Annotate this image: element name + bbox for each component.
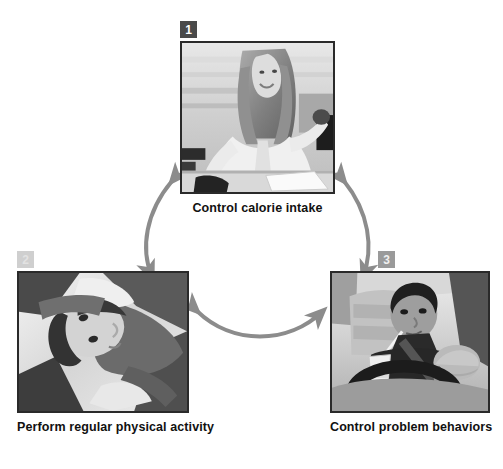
node-badge-2: 2 bbox=[17, 251, 34, 268]
node-photo-frame-1 bbox=[180, 41, 335, 194]
node-caption-3: Control problem behaviors bbox=[330, 420, 490, 434]
photo-woman-at-desk bbox=[182, 43, 333, 192]
node-badge-3: 3 bbox=[378, 251, 395, 268]
node-photo-frame-2 bbox=[17, 271, 189, 413]
node-perform-regular-physical-activity[interactable]: 2 bbox=[17, 251, 189, 434]
node-control-calorie-intake[interactable]: 1 bbox=[180, 21, 335, 215]
photo-eating-in-car bbox=[332, 273, 488, 411]
node-control-problem-behaviors[interactable]: 3 bbox=[330, 251, 490, 434]
node-badge-1: 1 bbox=[180, 21, 197, 38]
figure-canvas: 1 bbox=[0, 0, 503, 469]
arrow-node2-node3 bbox=[197, 311, 323, 337]
node-caption-2: Perform regular physical activity bbox=[17, 420, 189, 434]
node-photo-frame-3 bbox=[330, 271, 490, 413]
photo-stretching-exercise bbox=[19, 273, 187, 411]
node-caption-1: Control calorie intake bbox=[180, 201, 335, 215]
